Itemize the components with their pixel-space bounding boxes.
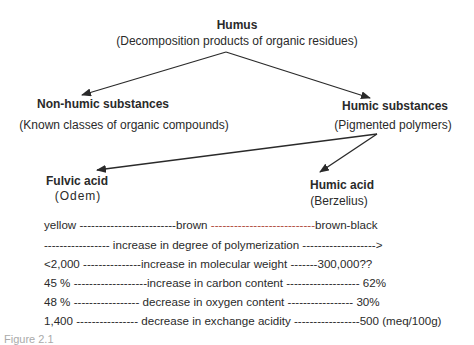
gradient-row-polymerization: ----------------- increase in degree of … xyxy=(44,238,382,252)
figure-caption: Figure 2.1 xyxy=(4,333,54,345)
node-nonhumic-subtitle: (Known classes of organic compounds) xyxy=(19,118,228,132)
node-humus-subtitle: (Decomposition products of organic resid… xyxy=(116,34,357,48)
node-humicacid-subtitle: (Berzelius) xyxy=(310,194,367,208)
node-humic-substances-title: Humic substances xyxy=(342,99,448,113)
gradient-row-carbon: 45 % -------------------increase in carb… xyxy=(44,276,386,290)
gradient-row-oxygen: 48 % ----------------- decrease in oxyge… xyxy=(44,295,380,309)
arrow-humic-to-fulvic xyxy=(97,134,377,170)
node-nonhumic-title: Non-humic substances xyxy=(37,97,169,111)
arrow-humus-to-humic xyxy=(226,52,370,98)
arrow-humus-to-nonhumic xyxy=(82,52,226,95)
gradient-row-color: yellow -------------------------brown --… xyxy=(44,218,378,232)
node-humicacid-title: Humic acid xyxy=(310,178,374,192)
node-humus-title: Humus xyxy=(217,18,258,32)
node-fulvic-subtitle: (Odem) xyxy=(55,189,102,203)
gradient-row-molecular-weight: <2,000 ---------------increase in molecu… xyxy=(44,257,372,271)
node-fulvic-title: Fulvic acid xyxy=(46,174,108,188)
gradient-row-exchange-acidity: 1,400 ---------------- decrease in excha… xyxy=(44,314,441,328)
node-humic-substances-subtitle: (Pigmented polymers) xyxy=(334,118,451,132)
